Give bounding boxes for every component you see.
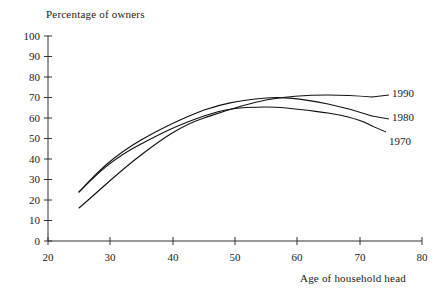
x-tick-label-50: 50: [220, 252, 250, 263]
y-tick-label-30: 30: [14, 174, 40, 185]
series-line-1980: [79, 98, 372, 192]
leader-line-1980: [372, 116, 389, 119]
series-label-1970: 1970: [389, 136, 411, 147]
series-label-1990: 1990: [392, 88, 414, 99]
y-tick-label-0: 0: [14, 236, 40, 247]
y-tick-label-10: 10: [14, 215, 40, 226]
x-tick-label-20: 20: [33, 252, 63, 263]
x-tick-label-80: 80: [407, 252, 437, 263]
legend-leader-lines: [372, 95, 389, 132]
y-tick-label-90: 90: [14, 51, 40, 62]
y-tick-label-40: 40: [14, 154, 40, 165]
leader-line-1970: [372, 126, 386, 132]
leader-line-1990: [372, 95, 389, 97]
data-series-group: [79, 95, 372, 208]
series-label-1980: 1980: [392, 112, 414, 123]
y-tick-label-50: 50: [14, 133, 40, 144]
y-tick-label-100: 100: [14, 31, 40, 42]
x-tick-label-60: 60: [282, 252, 312, 263]
y-tick-label-80: 80: [14, 72, 40, 83]
axes-group: [48, 36, 422, 241]
x-tick-label-30: 30: [95, 252, 125, 263]
x-axis-title: Age of household head: [300, 272, 406, 284]
chart-figure: Percentage of owners: [0, 0, 442, 297]
y-tick-label-60: 60: [14, 113, 40, 124]
y-tick-label-70: 70: [14, 92, 40, 103]
x-tick-label-40: 40: [158, 252, 188, 263]
x-tick-label-70: 70: [345, 252, 375, 263]
y-tick-label-20: 20: [14, 195, 40, 206]
series-line-1970: [79, 107, 372, 192]
